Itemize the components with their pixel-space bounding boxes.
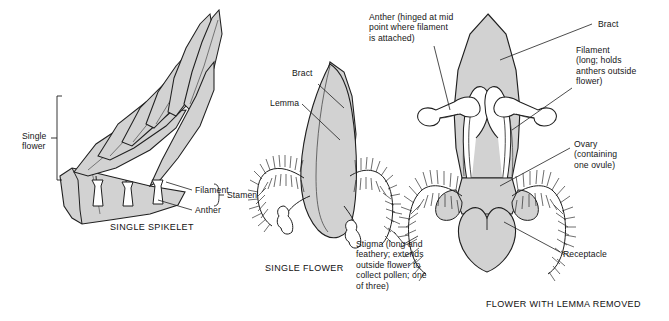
lr-stigma-right [512,170,576,281]
flower-stigma-right [350,157,402,244]
caption-single-flower: SINGLE FLOWER [265,263,344,273]
label-lemma: Lemma [270,98,299,108]
label-ovary: Ovary (containing one ovule) [574,139,617,170]
label-stigma: Stigma (long and feathery; extends outsi… [356,239,427,291]
leader-anther-right-panel [434,46,450,110]
lr-ovary [456,178,518,214]
label-filament-left: Filament [195,185,229,195]
label-anther-left: Anther [195,205,221,215]
single-flower-bracket [51,96,62,180]
label-single-flower: Single flower [22,131,47,152]
label-filament-right: Filament (long; holds anthers outside fl… [576,45,636,87]
caption-single-spikelet: SINGLE SPIKELET [110,222,194,232]
label-anther-right: Anther (hinged at mid point where filame… [369,12,453,43]
label-bract-right: Bract [598,19,619,29]
label-bract-middle: Bract [292,68,313,78]
label-receptacle: Receptacle [563,249,607,259]
flower-lemma-removed-illustration [398,14,592,281]
anther-left-body [277,206,293,234]
caption-flower-lemma-removed: FLOWER WITH LEMMA REMOVED [486,299,641,309]
single-flower-illustration [248,62,418,248]
leader-filament-left [166,182,192,190]
label-stamen: Stamen [227,190,257,200]
lr-receptacle [458,208,515,272]
